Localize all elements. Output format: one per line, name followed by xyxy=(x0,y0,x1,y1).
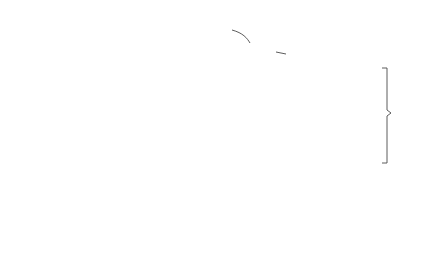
growth-chart-svg xyxy=(0,0,442,278)
chart-background xyxy=(0,0,442,278)
chart-figure xyxy=(0,0,442,278)
